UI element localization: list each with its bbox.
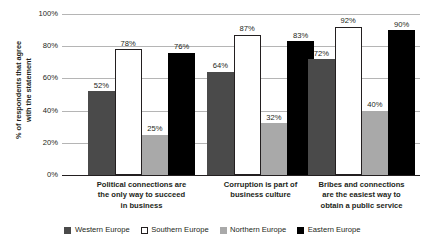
category-label-line: are the easiest way to: [286, 190, 425, 200]
y-tick-label: 80%: [18, 42, 58, 50]
category-label-line: Bribes and connections: [286, 180, 425, 190]
bar: [168, 53, 195, 175]
bar-value-label: 64%: [203, 62, 238, 70]
y-tick-label: 100%: [18, 10, 58, 18]
y-tick-label: 20%: [18, 139, 58, 147]
bar: [207, 72, 234, 175]
bar-value-label: 90%: [384, 21, 419, 29]
legend-swatch-icon: [220, 227, 227, 234]
y-tick-label: 60%: [18, 74, 58, 82]
bar: [142, 135, 169, 175]
gridline: [62, 14, 420, 15]
legend-swatch-icon: [141, 227, 148, 234]
legend: Western EuropeSouthern EuropeNorthern Eu…: [0, 226, 425, 234]
legend-swatch-icon: [297, 227, 304, 234]
bar-value-label: 78%: [111, 40, 146, 48]
bar: [115, 49, 142, 175]
plot-area: 52%78%25%76%64%87%32%83%72%92%40%90%: [62, 14, 420, 175]
bar: [88, 91, 115, 175]
legend-label: Eastern Europe: [308, 226, 361, 234]
y-tick-label: 0%: [18, 171, 58, 179]
legend-item[interactable]: Eastern Europe: [297, 226, 360, 234]
bar-value-label: 32%: [257, 114, 292, 122]
bar-value-label: 83%: [283, 32, 318, 40]
legend-label: Northern Europe: [230, 226, 286, 234]
y-tick-label: 40%: [18, 107, 58, 115]
legend-label: Southern Europe: [151, 226, 208, 234]
bar-value-label: 25%: [138, 125, 173, 133]
bar-value-label: 52%: [84, 82, 119, 90]
bar-value-label: 87%: [230, 25, 265, 33]
bar-value-label: 40%: [358, 101, 393, 109]
bar-value-label: 72%: [304, 50, 339, 58]
category-label-line: obtain a public service: [286, 201, 425, 211]
legend-swatch-icon: [64, 227, 71, 234]
bar-chart: % of respondents that agree with the sta…: [0, 0, 425, 246]
bar: [308, 59, 335, 175]
bar-value-label: 92%: [331, 17, 366, 25]
y-axis-title: % of respondents that agree with the sta…: [14, 5, 40, 175]
bar: [234, 35, 261, 175]
category-label: Bribes and connectionsare the easiest wa…: [286, 180, 425, 211]
legend-item[interactable]: Northern Europe: [220, 226, 287, 234]
bar-value-label: 76%: [164, 43, 199, 51]
bar: [261, 123, 288, 175]
legend-item[interactable]: Southern Europe: [141, 226, 209, 234]
category-label-line: in business: [66, 201, 217, 211]
legend-item[interactable]: Western Europe: [64, 226, 129, 234]
x-axis-line: [62, 175, 420, 176]
y-axis-title-line-1: % of respondents that agree: [14, 41, 23, 139]
bar: [388, 30, 415, 175]
bar: [362, 111, 389, 175]
legend-label: Western Europe: [75, 226, 130, 234]
